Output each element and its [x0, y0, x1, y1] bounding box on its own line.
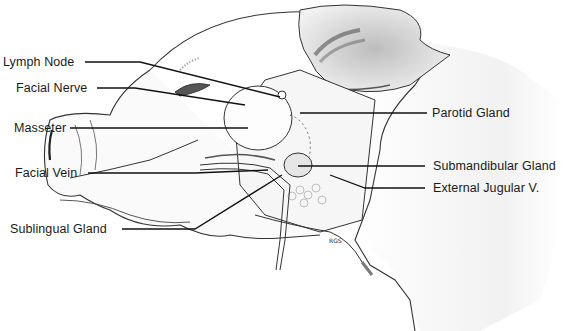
label-submandibular-gland: Submandibular Gland [433, 159, 556, 173]
label-external-jugular: External Jugular V. [433, 181, 539, 195]
label-lymph-node: Lymph Node [3, 55, 74, 69]
label-parotid-gland: Parotid Gland [432, 106, 510, 120]
lymph-node-shape [278, 91, 286, 99]
label-sublingual-gland: Sublingual Gland [10, 222, 107, 236]
anatomy-diagram: RGS Lymph Node Facial Nerve Masseter Fac… [0, 0, 575, 331]
label-masseter: Masseter [14, 121, 66, 135]
submandibular-shape [284, 153, 312, 177]
label-facial-nerve: Facial Nerve [16, 81, 87, 95]
eye [175, 84, 210, 96]
label-facial-vein: Facial Vein [15, 166, 77, 180]
artist-signature: RGS [329, 237, 342, 244]
